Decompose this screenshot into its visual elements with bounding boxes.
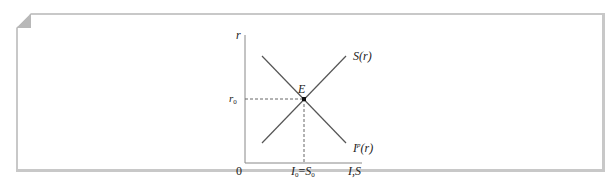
equilibrium-point: [302, 97, 306, 101]
y-axis-label: r: [236, 28, 241, 42]
equilibrium-label: E: [297, 82, 306, 96]
is-diagram: r 0 I,S E r0 I0=S0 S(r) Ip(r): [0, 0, 616, 181]
i0-s0-label: I0=S0: [290, 164, 315, 179]
x-axis-label: I,S: [347, 164, 361, 178]
origin-label: 0: [236, 164, 242, 178]
saving-curve-label: S(r): [353, 49, 372, 63]
investment-curve-label: Ip(r): [352, 141, 373, 155]
r0-label: r0: [229, 92, 237, 106]
